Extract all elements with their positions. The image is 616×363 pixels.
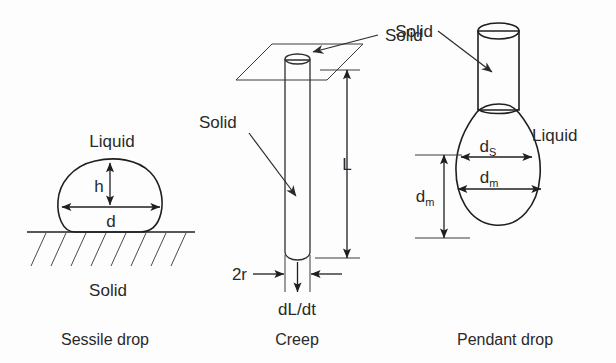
pendant-dm-base: d: [480, 168, 489, 187]
creep-solid-plate: [236, 44, 363, 80]
figure-root: h d Liquid Solid Sessile drop Solid: [0, 0, 616, 363]
pendant-dm-vert-subscript: m: [425, 196, 434, 208]
panel-creep: Solid Solid L 2r dL/dt Creep: [199, 26, 423, 348]
pendant-ds-label: dS: [480, 137, 497, 158]
pendant-ds-subscript: S: [489, 146, 496, 158]
creep-rod-leader-line: [249, 133, 296, 196]
panel-sessile-drop: h d Liquid Solid Sessile drop: [27, 132, 195, 348]
creep-length-label: L: [342, 155, 351, 174]
sessile-liquid-label: Liquid: [89, 132, 134, 151]
pendant-dm-vertical-label: dm: [416, 187, 435, 208]
sessile-solid-label: Solid: [89, 281, 127, 300]
sessile-caption: Sessile drop: [61, 331, 149, 348]
creep-rod-solid-label: Solid: [199, 113, 237, 132]
pendant-ds-base: d: [480, 137, 489, 156]
pendant-dm-subscript: m: [489, 177, 498, 189]
surface-tension-diagram: h d Liquid Solid Sessile drop Solid: [0, 0, 616, 363]
pendant-rod-body: [478, 31, 519, 110]
panel-pendant-drop: Solid Liquid dS dm dm Pendant drop: [395, 22, 577, 348]
pendant-dm-vert-base: d: [416, 187, 425, 206]
sessile-diameter-label: d: [106, 212, 115, 231]
creep-rod-body: [285, 60, 310, 260]
sessile-height-label: h: [94, 177, 103, 196]
pendant-caption: Pendant drop: [457, 331, 553, 348]
pendant-solid-label: Solid: [395, 22, 433, 41]
creep-radius-label: 2r: [232, 265, 247, 284]
creep-rod-top-ellipse: [285, 54, 310, 64]
pendant-dm-label: dm: [480, 168, 499, 189]
pendant-liquid-label: Liquid: [532, 126, 577, 145]
creep-caption: Creep: [275, 331, 319, 348]
sessile-hatching: [31, 233, 186, 266]
pendant-bulb-body: [456, 104, 540, 225]
creep-rate-label: dL/dt: [278, 300, 316, 319]
